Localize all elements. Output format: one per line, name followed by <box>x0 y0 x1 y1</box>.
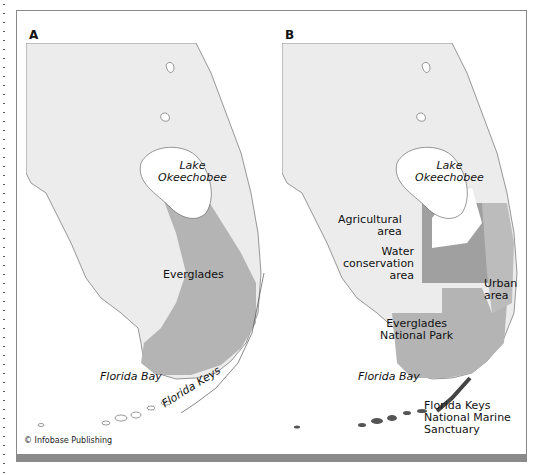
everglades-label: Everglades <box>163 269 224 281</box>
lake-okeechobee-label-a: LakeOkeechobee <box>158 160 227 184</box>
florida-keys-sanctuary-label: Florida KeysNational MarineSanctuary <box>424 400 511 436</box>
urban-area-label: Urbanarea <box>484 278 517 302</box>
panel-a-label: A <box>29 28 38 42</box>
dotted-margin <box>3 0 5 475</box>
florida-bay-label-b: Florida Bay <box>358 371 420 383</box>
bottom-bar <box>16 454 526 462</box>
panel-b-label: B <box>285 28 294 42</box>
agricultural-area-label: Agriculturalarea <box>338 214 402 238</box>
copyright-credit: © Infobase Publishing <box>24 436 112 445</box>
water-conservation-area-label: Waterconservationarea <box>343 246 414 282</box>
everglades-national-park-label: EvergladesNational Park <box>380 318 453 342</box>
lake-okeechobee-label-b: LakeOkeechobee <box>415 160 484 184</box>
florida-bay-label-a: Florida Bay <box>100 371 162 383</box>
